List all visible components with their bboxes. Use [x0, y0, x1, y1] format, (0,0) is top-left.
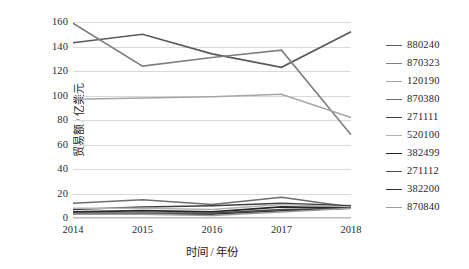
series-lines	[73, 22, 351, 218]
legend-label: 382200	[407, 184, 440, 194]
legend-item[interactable]: 271111	[386, 108, 469, 126]
y-axis-tick-label: 120	[28, 66, 68, 76]
y-axis-tick-label: 0	[28, 213, 68, 223]
legend-swatch-icon	[386, 63, 402, 64]
legend-label: 520100	[407, 130, 440, 140]
legend-item[interactable]: 880240	[386, 36, 469, 54]
legend-swatch-icon	[386, 45, 402, 46]
legend-swatch-icon	[386, 171, 402, 172]
x-axis-tick-label: 2015	[113, 224, 173, 236]
x-axis-tick-label: 2017	[252, 224, 312, 236]
y-axis-tick-label: 100	[28, 91, 68, 101]
legend-label: 870323	[407, 58, 440, 68]
legend-label: 120190	[407, 76, 440, 86]
legend-swatch-icon	[386, 207, 402, 208]
x-axis-tick-label: 2016	[182, 224, 242, 236]
legend-swatch-icon	[386, 135, 402, 136]
y-axis-ticks: 020406080100120140160	[24, 22, 68, 218]
chart-legend: 8802408703231201908703802711115201003824…	[386, 36, 469, 216]
y-axis-tick-label: 60	[28, 140, 68, 150]
x-axis-ticks: 20142015201620172018	[73, 224, 351, 238]
legend-label: 271112	[407, 166, 439, 176]
x-axis-tick-label: 2018	[321, 224, 381, 236]
legend-item[interactable]: 870840	[386, 198, 469, 216]
x-axis-title: 时间 / 年份	[73, 243, 351, 259]
legend-label: 880240	[407, 40, 440, 50]
legend-label: 382499	[407, 148, 440, 158]
legend-swatch-icon	[386, 153, 402, 154]
legend-label: 870840	[407, 202, 440, 212]
y-axis-tick-label: 20	[28, 189, 68, 199]
legend-swatch-icon	[386, 99, 402, 100]
legend-swatch-icon	[386, 117, 402, 118]
legend-item[interactable]: 120190	[386, 72, 469, 90]
y-axis-tick-label: 160	[28, 17, 68, 27]
line-chart: 贸易额 / 亿美元 020406080100120140160 20142015…	[0, 0, 469, 269]
plot-area	[73, 22, 351, 218]
legend-item[interactable]: 870323	[386, 54, 469, 72]
y-axis-tick-label: 140	[28, 42, 68, 52]
gridline	[73, 218, 351, 219]
legend-label: 870380	[407, 94, 440, 104]
y-axis-tick-label: 80	[28, 115, 68, 125]
legend-item[interactable]: 870380	[386, 90, 469, 108]
legend-swatch-icon	[386, 81, 402, 82]
series-line	[73, 23, 351, 134]
y-axis-tick-label: 40	[28, 164, 68, 174]
series-line	[73, 94, 351, 117]
legend-item[interactable]: 382200	[386, 180, 469, 198]
x-axis-tick-label: 2014	[43, 224, 103, 236]
legend-item[interactable]: 382499	[386, 144, 469, 162]
legend-item[interactable]: 271112	[386, 162, 469, 180]
legend-item[interactable]: 520100	[386, 126, 469, 144]
legend-label: 271111	[407, 112, 439, 122]
legend-swatch-icon	[386, 189, 402, 190]
